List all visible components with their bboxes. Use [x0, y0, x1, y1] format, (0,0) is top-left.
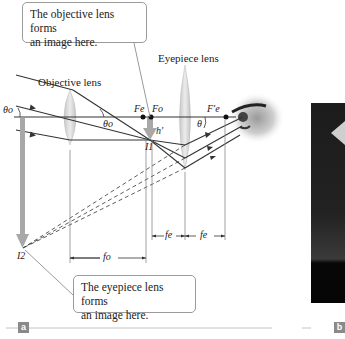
theta-label: θ: [197, 118, 202, 129]
fe-focal-label: Fe: [134, 103, 145, 114]
final-image-arrow: [16, 118, 29, 248]
panel-b-photo: [311, 103, 345, 303]
incoming-rays: [16, 75, 185, 168]
h-prime-label: h′: [156, 125, 163, 136]
fe-prime-focal-label: F′e: [207, 103, 220, 114]
i2-label: I2: [17, 250, 25, 261]
callout-objective-line2: an image here.: [30, 35, 139, 49]
focal-point-fe: [141, 115, 146, 120]
callout-objective-line1: The objective lens forms: [30, 7, 139, 35]
focal-point-fe-prime: [224, 115, 229, 120]
callout-eyepiece-image: The eyepiece lens forms an image here.: [73, 275, 196, 313]
theta-o-inner-label: θo: [103, 118, 113, 129]
i1-label: I1: [145, 141, 153, 152]
fo-focal-label: Fo: [152, 103, 163, 114]
panel-b-tag: b: [334, 322, 345, 333]
callout-eyepiece-line1: The eyepiece lens forms: [81, 280, 188, 308]
theta-o-left-label: θo: [3, 104, 13, 115]
callout-eyepiece-line2: an image here.: [81, 308, 188, 322]
objective-lens-label: Objective lens: [38, 76, 101, 88]
callout-objective-image: The objective lens forms an image here.: [22, 2, 147, 43]
panel-a-tag: a: [18, 322, 29, 333]
virtual-rays: [23, 145, 185, 248]
fo-dimension-label: fo: [103, 251, 111, 262]
fe-dimension-label-1: fe: [165, 229, 172, 240]
panel-b-highlight: [331, 121, 345, 145]
fe-dimension-label-2: fe: [200, 229, 207, 240]
eyepiece-lens-label: Eyepiece lens: [158, 52, 219, 64]
